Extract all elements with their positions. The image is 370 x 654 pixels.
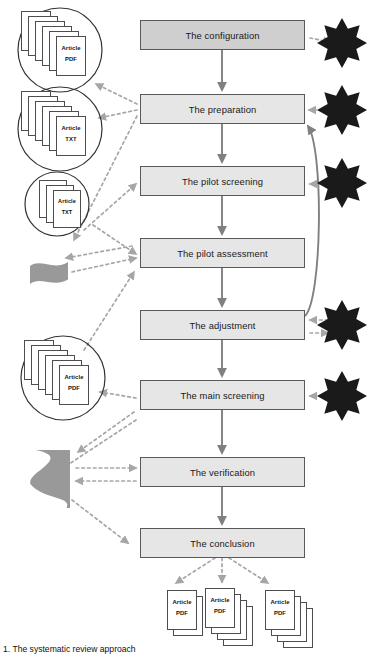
dotted-preparation-to-pdf-corpus [96, 84, 137, 104]
document-format-label: PDF [56, 56, 86, 62]
document-format-label: TXT [56, 136, 86, 142]
star-adjustment-icon[interactable] [317, 300, 367, 350]
document-title-label: Article [205, 597, 235, 603]
feedback-arrow-adjustment-to-preparation [305, 126, 319, 316]
dotted-txt-small-to-pilot-screening [84, 184, 136, 230]
star-main-screening-icon[interactable] [317, 371, 367, 421]
process-step-pilot-screening[interactable]: The pilot screening [140, 166, 305, 196]
dotted-pilot-data-to-assessment [72, 258, 136, 272]
document-title-label: Article [56, 45, 86, 51]
document-title-label: Article [59, 374, 89, 380]
process-step-pilot-assessment[interactable]: The pilot assessment [140, 238, 305, 268]
process-step-label: The adjustment [189, 320, 255, 331]
dotted-preparation-to-txt-corpus [99, 110, 137, 118]
data-store-pilot-data-small[interactable] [30, 262, 68, 284]
process-step-conclusion[interactable]: The conclusion [140, 528, 305, 558]
document-format-label: PDF [167, 610, 197, 616]
dotted-assessment-to-pilot-data [66, 246, 132, 258]
process-step-label: The pilot screening [182, 176, 263, 187]
document-format-label: PDF [205, 608, 235, 614]
dotted-conclusion-to-output-1 [176, 558, 215, 583]
process-step-configuration[interactable]: The configuration [140, 20, 305, 50]
document-format-label: TXT [53, 209, 81, 215]
document-title-label: Article [56, 125, 86, 131]
decision-star-markers [317, 18, 367, 421]
figure-caption: 1. The systematic review approach [3, 644, 136, 654]
dotted-main-screening-to-verification-data [78, 412, 134, 452]
star-preparation-icon[interactable] [317, 85, 367, 135]
star-configuration-icon[interactable] [317, 18, 367, 68]
process-step-preparation[interactable]: The preparation [140, 94, 305, 124]
process-step-adjustment[interactable]: The adjustment [140, 310, 305, 340]
process-step-label: The preparation [189, 104, 257, 115]
dotted-pdf-screened-to-assessment [84, 272, 134, 350]
document-title-label: Article [167, 599, 197, 605]
process-step-label: The conclusion [190, 538, 254, 549]
data-store-verification-data-large[interactable] [30, 450, 70, 508]
dotted-conclusion-to-output-3 [229, 558, 268, 583]
process-step-verification[interactable]: The verification [140, 457, 305, 487]
process-step-main-screening[interactable]: The main screening [140, 380, 305, 410]
dotted-main-screening-to-pdf-screened [100, 392, 136, 398]
process-step-label: The main screening [180, 390, 264, 401]
process-step-label: The verification [190, 467, 255, 478]
dotted-verification-data-to-conclusion [72, 500, 128, 543]
process-step-label: The configuration [185, 30, 259, 41]
document-format-label: PDF [265, 610, 295, 616]
document-title-label: Article [53, 198, 81, 204]
process-step-label: The pilot assessment [177, 248, 268, 259]
dotted-crossing-lower-left [60, 420, 136, 470]
document-title-label: Article [265, 599, 295, 605]
document-format-label: PDF [59, 385, 89, 391]
star-pilot-screening-icon[interactable] [317, 158, 367, 208]
